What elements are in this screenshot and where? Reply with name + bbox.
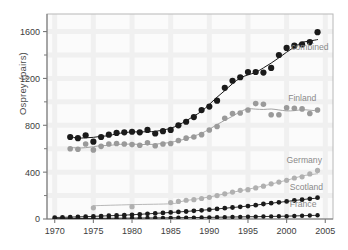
data-point [245, 107, 251, 113]
data-point [276, 112, 282, 118]
series-label-finland: Finland [288, 93, 316, 103]
data-point [238, 188, 243, 193]
data-point [60, 216, 64, 220]
data-point [206, 103, 212, 109]
data-point [207, 207, 212, 212]
data-point [238, 204, 243, 209]
y-tick-label: 800 [25, 121, 40, 131]
data-point [214, 193, 219, 198]
data-point [191, 114, 197, 120]
data-point [237, 110, 243, 116]
data-point [122, 216, 126, 220]
data-point [307, 171, 312, 176]
data-point [276, 180, 281, 185]
data-point [168, 141, 174, 147]
data-point [198, 107, 204, 113]
data-point [138, 216, 142, 220]
data-point [222, 206, 227, 211]
data-point [292, 106, 298, 112]
data-point [160, 128, 166, 134]
data-point [199, 132, 205, 138]
data-point [168, 127, 174, 133]
data-point [199, 208, 204, 213]
data-point [129, 204, 134, 209]
data-point [183, 135, 189, 141]
data-point [207, 195, 212, 200]
data-point [75, 147, 81, 153]
data-point [98, 134, 104, 140]
data-point [91, 147, 97, 153]
data-point [253, 203, 258, 208]
data-point [269, 181, 274, 186]
data-point [246, 204, 251, 209]
data-point [269, 201, 274, 206]
data-point [237, 74, 243, 80]
data-point [315, 168, 320, 173]
data-point [284, 45, 290, 51]
data-point [308, 213, 312, 217]
chart-canvas: 0400800120016001970197519801985199019952… [0, 0, 348, 250]
data-point [176, 199, 181, 204]
data-point [107, 216, 111, 220]
data-point [184, 198, 189, 203]
x-tick-label: 2005 [315, 226, 335, 236]
data-point [246, 215, 250, 219]
series-label-germany: Germany [287, 155, 323, 165]
data-point [284, 214, 288, 218]
data-point [276, 52, 282, 58]
data-point [245, 69, 251, 75]
osprey-population-chart: Osprey (pairs) 0400800120016001970197519… [0, 0, 348, 250]
data-point [261, 202, 266, 207]
data-point [300, 214, 304, 218]
x-tick-label: 1970 [45, 226, 65, 236]
data-point [191, 208, 196, 213]
data-point [253, 101, 259, 107]
data-point [299, 174, 304, 179]
data-point [122, 141, 128, 147]
data-point [222, 85, 228, 91]
data-point [214, 98, 220, 104]
data-point [230, 205, 235, 210]
data-point [268, 65, 274, 71]
data-point [114, 216, 118, 220]
data-point [113, 130, 119, 136]
y-tick-label: 400 [25, 168, 40, 178]
data-point [307, 111, 313, 117]
y-tick-label: 0 [35, 214, 40, 224]
data-point [223, 215, 227, 219]
y-tick-label: 1600 [20, 27, 40, 37]
data-point [75, 135, 81, 141]
data-point [245, 187, 250, 192]
series-label-combined: combined [291, 42, 328, 52]
data-point [269, 214, 273, 218]
data-point [277, 214, 281, 218]
data-point [284, 105, 290, 111]
data-point [261, 101, 267, 107]
data-point [315, 213, 319, 217]
y-tick-label: 1200 [20, 74, 40, 84]
data-point [314, 29, 320, 35]
data-point [191, 134, 197, 140]
x-tick-label: 1985 [161, 226, 181, 236]
data-point [83, 141, 89, 147]
data-point [168, 210, 173, 215]
data-point [160, 141, 166, 147]
data-point [68, 216, 72, 220]
data-point [176, 210, 181, 215]
x-tick-label: 1980 [122, 226, 142, 236]
data-point [168, 200, 173, 205]
data-point [83, 216, 87, 220]
data-point [254, 214, 258, 218]
x-tick-label: 2000 [277, 226, 297, 236]
data-point [184, 209, 189, 214]
data-point [222, 191, 227, 196]
data-point [152, 143, 158, 149]
data-point [292, 175, 297, 180]
data-point [261, 184, 266, 189]
data-point [299, 106, 305, 112]
data-point [261, 214, 265, 218]
data-point [284, 178, 289, 183]
data-point [145, 140, 151, 146]
data-point [91, 205, 96, 210]
data-point [137, 129, 143, 135]
